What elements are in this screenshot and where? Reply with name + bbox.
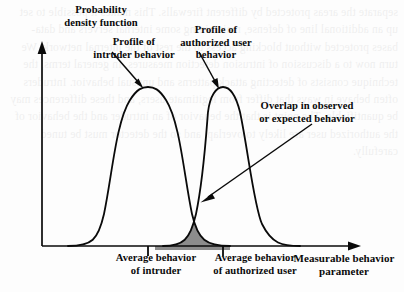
overlap-shaded-region — [40, 60, 330, 250]
y-axis — [38, 41, 47, 246]
authorized-profile-label: Profile of authorized user behavior — [168, 24, 264, 62]
overlap-label: Overlap in observed or expected behavior — [242, 100, 372, 125]
x-axis-arrowhead — [348, 242, 361, 251]
intrusion-detection-profile-figure: separate the areas protected by differen… — [0, 0, 404, 292]
overlap-leader-arrow — [201, 124, 313, 203]
x-axis-label: Measurable behavior parameter — [288, 252, 400, 277]
tick-label-intruder-mean: Average behavior of intruder — [104, 252, 208, 277]
y-axis-label: Probability density function — [26, 4, 176, 29]
intruder-behavior-curve — [68, 87, 230, 246]
y-axis-arrowhead — [38, 41, 47, 54]
